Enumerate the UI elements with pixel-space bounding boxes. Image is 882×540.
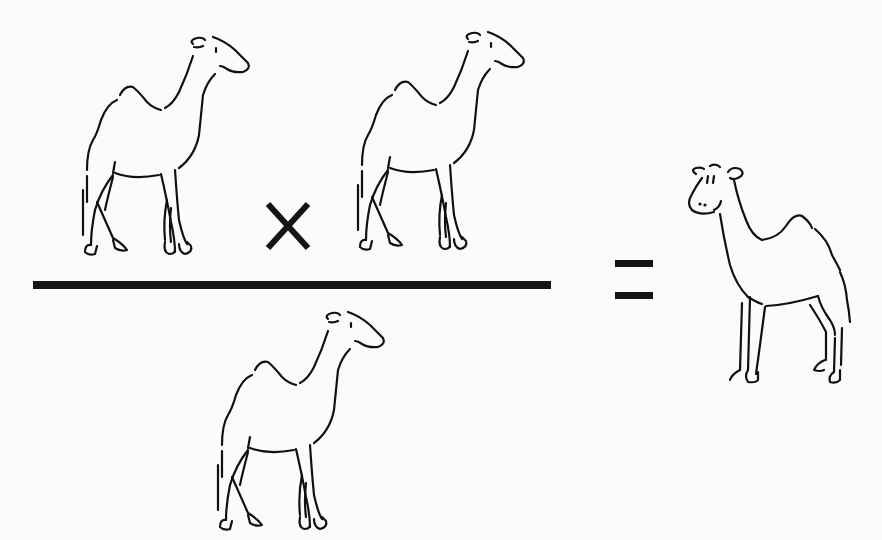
fraction-bar — [33, 281, 551, 289]
camel-icon — [210, 305, 390, 540]
numerator-camel-left: dromedary camel (one hump) — [75, 30, 255, 265]
denominator-camel: dromedary camel (one hump) — [210, 305, 390, 540]
multiply-icon — [264, 200, 312, 252]
camel-icon — [350, 25, 530, 260]
camel-icon — [75, 30, 255, 265]
equals-bottom-bar — [615, 292, 653, 299]
numerator-camel-right: dromedary camel (one hump) — [350, 25, 530, 260]
multiply-sign: × — [264, 200, 312, 252]
smiling-camel-icon — [670, 160, 870, 390]
camel-equation-diagram: dromedary camel (one hump) × dromedary c… — [0, 0, 882, 540]
equals-top-bar — [615, 260, 653, 267]
result-camel: smiling camel (one hump, facing left) — [670, 160, 870, 390]
equals-label: = — [0, 0, 1, 1]
